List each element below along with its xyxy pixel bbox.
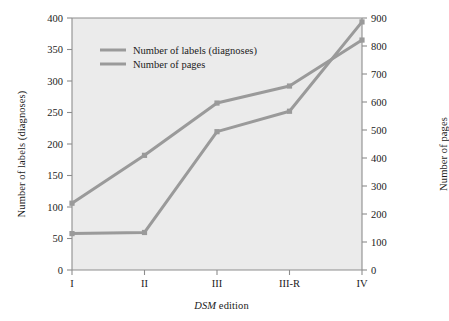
series-marker (287, 83, 292, 88)
left-tick-label: 50 (53, 233, 64, 244)
left-tick-label: 100 (47, 202, 63, 213)
right-axis-tick-labels: 0100200300400500600700800900 (371, 13, 387, 276)
legend-label: Number of pages (133, 59, 205, 70)
series-marker (69, 231, 74, 236)
right-axis-ticks (362, 18, 367, 270)
series-marker (214, 100, 219, 105)
left-tick-label: 400 (47, 13, 63, 24)
right-tick-label: 400 (371, 153, 387, 164)
series-marker (142, 153, 147, 158)
right-tick-label: 100 (371, 237, 387, 248)
series-marker (142, 230, 147, 235)
right-tick-label: 700 (371, 69, 387, 80)
right-tick-label: 800 (371, 41, 387, 52)
left-tick-label: 0 (58, 265, 63, 276)
left-tick-label: 350 (47, 44, 63, 55)
left-tick-label: 250 (47, 107, 63, 118)
left-tick-label: 150 (47, 170, 63, 181)
series-marker (359, 19, 364, 24)
x-axis-category-labels: IIIIIIIII-RIV (70, 278, 368, 289)
right-tick-label: 0 (371, 265, 376, 276)
x-category-label: III (212, 278, 223, 289)
right-tick-label: 300 (371, 181, 387, 192)
series-marker (287, 109, 292, 114)
left-tick-label: 300 (47, 76, 63, 87)
series-marker (69, 201, 74, 206)
x-category-label: IV (356, 278, 367, 289)
left-axis-tick-labels: 050100150200250300350400 (47, 13, 63, 276)
x-category-label: II (141, 278, 148, 289)
right-tick-label: 500 (371, 125, 387, 136)
legend-label: Number of labels (diagnoses) (133, 45, 257, 57)
x-category-label: I (70, 278, 74, 289)
left-tick-label: 200 (47, 139, 63, 150)
series-marker (359, 37, 364, 42)
right-tick-label: 900 (371, 13, 387, 24)
right-tick-label: 200 (371, 209, 387, 220)
right-tick-label: 600 (371, 97, 387, 108)
series-marker (214, 129, 219, 134)
x-category-label: III-R (279, 278, 300, 289)
x-axis-ticks (72, 270, 362, 275)
